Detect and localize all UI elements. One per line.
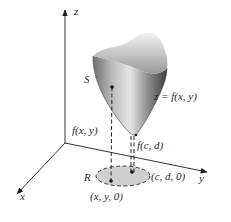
region-r xyxy=(96,166,150,186)
surface-point-label: f(x, y) xyxy=(72,124,98,137)
base-point-xy xyxy=(109,179,113,183)
base-point-cd xyxy=(130,170,134,174)
base-point-label: (x, y, 0) xyxy=(90,190,123,203)
surface-point xyxy=(110,85,114,89)
surface-equation-label: z = f(x, y) xyxy=(153,90,197,103)
surface-diagram: z y x S z = f(x, y) f(x, y) f(c, d) R (c… xyxy=(0,0,231,222)
z-axis-label: z xyxy=(73,5,79,17)
y-axis-label: y xyxy=(198,172,204,184)
min-point-label: f(c, d) xyxy=(137,139,164,152)
min-point xyxy=(135,134,138,137)
min-base-label: (c, d, 0) xyxy=(151,170,186,183)
surface-name-label: S xyxy=(84,73,90,85)
region-label: R xyxy=(83,171,91,183)
x-axis xyxy=(17,143,65,194)
x-axis-label: x xyxy=(19,190,25,202)
surface-s xyxy=(93,33,167,136)
